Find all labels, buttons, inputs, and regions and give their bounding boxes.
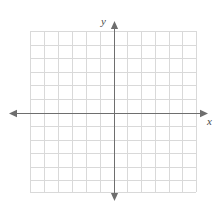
coordinate-plane-svg: [0, 0, 221, 213]
y-axis: [111, 21, 118, 201]
x-axis: [9, 110, 208, 117]
y-axis-label: y: [101, 16, 106, 27]
x-axis-left-arrowhead: [9, 110, 17, 117]
grid-horizontal-lines: [30, 32, 196, 193]
coordinate-grid-figure: y x: [0, 0, 221, 213]
x-axis-label: x: [207, 116, 212, 127]
y-axis-top-arrowhead: [111, 21, 118, 29]
y-axis-bottom-arrowhead: [111, 193, 118, 201]
